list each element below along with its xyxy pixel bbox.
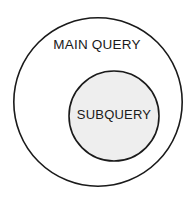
venn-diagram: MAIN QUERY SUBQUERY — [0, 0, 194, 203]
subquery-label: SUBQUERY — [17, 107, 194, 122]
venn-diagram-canvas — [0, 0, 194, 203]
main-query-label: MAIN QUERY — [0, 37, 194, 52]
